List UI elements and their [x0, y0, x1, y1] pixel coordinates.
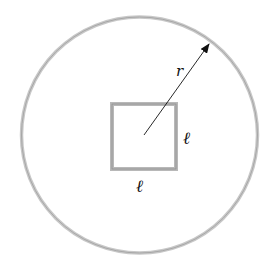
- outer-circle: [22, 17, 258, 253]
- diagram-canvas: r ℓ ℓ: [0, 0, 266, 277]
- inner-square: [112, 104, 176, 169]
- radius-label: r: [176, 62, 184, 80]
- side-label-bottom: ℓ: [136, 176, 143, 196]
- side-label-right: ℓ: [183, 128, 190, 148]
